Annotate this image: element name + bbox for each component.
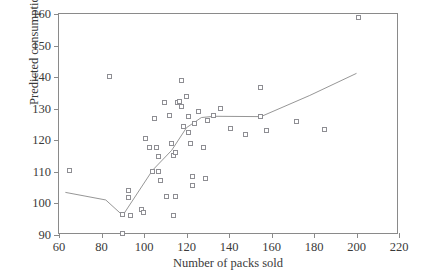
x-tick-label: 60 (53, 240, 66, 255)
data-point (190, 174, 195, 179)
data-point (147, 145, 152, 150)
data-point (243, 132, 248, 137)
data-point (150, 169, 155, 174)
data-point (228, 126, 233, 131)
data-point (258, 85, 263, 90)
data-point (158, 178, 163, 183)
y-tick-label: 100 (32, 194, 51, 212)
x-tick-mark (399, 233, 400, 238)
data-point (128, 213, 133, 218)
data-point (120, 212, 125, 217)
data-point (154, 145, 159, 150)
scatter-chart: Predicted consumption 901001101201301401… (0, 0, 422, 280)
data-point (218, 106, 223, 111)
data-point (196, 109, 201, 114)
data-point (205, 118, 210, 123)
data-point (162, 100, 167, 105)
x-tick-label: 180 (305, 240, 324, 255)
data-point (152, 116, 157, 121)
data-point (107, 74, 112, 79)
x-tick-label: 100 (135, 240, 154, 255)
data-point (184, 94, 189, 99)
y-tick-label: 160 (32, 5, 51, 23)
data-point (173, 194, 178, 199)
x-tick-label: 220 (390, 240, 409, 255)
data-point (141, 210, 146, 215)
x-tick-label: 140 (220, 240, 239, 255)
y-tick-label: 120 (32, 131, 51, 149)
data-point (294, 119, 299, 124)
data-point (173, 150, 178, 155)
data-point (201, 145, 206, 150)
data-point (167, 113, 172, 118)
data-point (156, 154, 161, 159)
y-tick-label: 130 (32, 100, 51, 118)
data-point (258, 114, 263, 119)
x-axis-label: Number of packs sold (58, 256, 398, 271)
x-tick-label: 120 (177, 240, 196, 255)
fit-line (59, 14, 399, 235)
x-tick-label: 200 (347, 240, 366, 255)
data-point (179, 78, 184, 83)
data-point (169, 141, 174, 146)
data-point (143, 136, 148, 141)
data-point (192, 121, 197, 126)
data-point (171, 213, 176, 218)
y-tick-label: 110 (33, 163, 51, 181)
data-point (164, 194, 169, 199)
data-point (186, 114, 191, 119)
y-tick-label: 90 (39, 226, 52, 244)
data-point (264, 128, 269, 133)
data-point (186, 130, 191, 135)
plot-area: 90100110120130140150160 6080100120140160… (58, 13, 398, 234)
x-tick-label: 80 (95, 240, 108, 255)
data-point (356, 15, 361, 20)
data-point (179, 104, 184, 109)
data-point (203, 176, 208, 181)
data-point (190, 183, 195, 188)
data-point (156, 169, 161, 174)
data-point (322, 127, 327, 132)
data-point (126, 188, 131, 193)
data-point (67, 168, 72, 173)
y-tick-label: 140 (32, 68, 51, 86)
data-point (120, 231, 125, 236)
x-tick-label: 160 (262, 240, 281, 255)
data-point (181, 124, 186, 129)
data-point (126, 195, 131, 200)
data-point (211, 113, 216, 118)
y-tick-label: 150 (32, 37, 51, 55)
data-point (188, 141, 193, 146)
